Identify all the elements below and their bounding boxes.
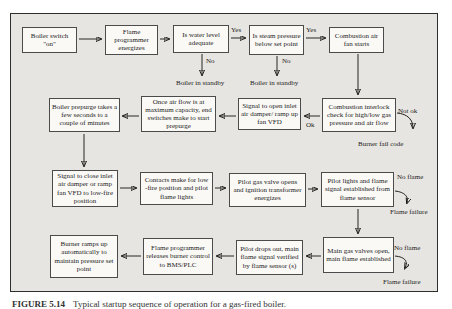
label-flame-failure-main: Flame failure: [383, 279, 421, 286]
label-no-water: No: [206, 58, 215, 65]
label-boiler-standby-steam: Boiler in standby: [250, 80, 298, 87]
node-signal-close-damper: Signal to close inlet air damper or ramp…: [52, 170, 118, 207]
node-boiler-switch: Boiler switch "on": [22, 27, 77, 53]
node-flame-programmer-energizes: Flame programmer energizes: [105, 25, 158, 55]
label-yes-water: Yes: [231, 27, 241, 34]
node-main-gas-valves: Main gas valves open, main flame establi…: [323, 237, 394, 273]
node-pilot-drops-out: Pilot drops out, main flame signal verif…: [236, 240, 303, 275]
label-yes-steam: Yes: [306, 27, 316, 34]
node-steam-pressure-check: Is steam pressure below set point: [249, 25, 304, 55]
label-not-ok: Not ok: [398, 108, 417, 115]
figure-caption-label: FIGURE 5.14: [12, 299, 65, 309]
figure-caption-text: Typical startup sequence of operation fo…: [73, 299, 286, 309]
node-pilot-gas-valve: Pilot gas valve opens and ignition trans…: [229, 173, 306, 207]
node-interlock-check: Combustion interlock check for high/low …: [322, 98, 396, 132]
label-no-flame-pilot: No flame: [397, 174, 423, 181]
label-ok: Ok: [306, 122, 315, 129]
node-combustion-fan-starts: Combustion air fan starts: [329, 27, 384, 53]
node-water-level-check: Is water level adequate: [173, 25, 229, 53]
node-airflow-max: Once air flow is at maximum capacity, en…: [141, 96, 216, 132]
node-burner-ramps-up: Burner ramps up automatically to maintai…: [50, 235, 118, 278]
node-signal-open-damper: Signal to open inlet air damper/ ramp up…: [238, 98, 301, 130]
label-boiler-standby-water: Boiler in standby: [176, 80, 224, 87]
label-no-steam: No: [282, 58, 291, 65]
node-boiler-prepurge: Boiler prepurge takes a few seconds to a…: [49, 98, 120, 132]
node-contacts-low-fire: Contacts make for low -fire position and…: [140, 172, 213, 205]
node-pilot-lights: Pilot lights and flame signal establishe…: [321, 172, 394, 207]
figure-caption: FIGURE 5.14Typical startup sequence of o…: [12, 299, 286, 309]
label-burner-fail-code: Burner fail code: [358, 141, 403, 148]
node-programmer-releases: Flame programmer releases burner control…: [143, 238, 213, 275]
label-no-flame-main: No flame: [394, 245, 420, 252]
label-flame-failure-pilot: Flame failure: [390, 209, 428, 216]
